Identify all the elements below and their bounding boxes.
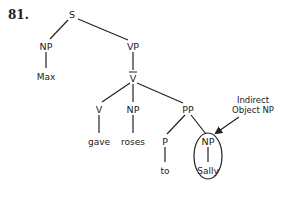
node-vbar-label: V <box>130 73 137 84</box>
word-roses: roses <box>121 137 145 147</box>
edge-vbar-v <box>102 83 130 102</box>
node-vbar: V <box>129 72 137 84</box>
annotation-line-2: Object NP <box>232 105 274 115</box>
example-number: 81. <box>8 8 29 22</box>
word-gave: gave <box>88 137 111 147</box>
node-indirect-object-np: NP <box>202 136 215 147</box>
node-direct-object-np: NP <box>127 104 140 115</box>
edge-s-vp <box>78 19 128 40</box>
node-vp: VP <box>127 41 139 52</box>
word-to: to <box>160 166 170 176</box>
edge-vbar-pp <box>137 83 183 103</box>
word-sally: Sally <box>197 166 219 176</box>
node-v: V <box>96 104 103 115</box>
edge-pp-p <box>167 115 185 134</box>
edge-pp-np <box>191 115 206 134</box>
node-p: P <box>162 136 168 147</box>
annotation-line-1: Indirect <box>237 95 270 105</box>
annotation-arrow <box>216 117 239 133</box>
node-s: S <box>69 9 75 20</box>
word-max: Max <box>37 72 56 82</box>
node-pp: PP <box>182 104 194 115</box>
syntax-tree-diagram: 81. S NP Max VP V V NP PP gave roses P N… <box>0 0 285 201</box>
node-subject-np: NP <box>40 41 53 52</box>
edge-s-np <box>50 20 68 39</box>
